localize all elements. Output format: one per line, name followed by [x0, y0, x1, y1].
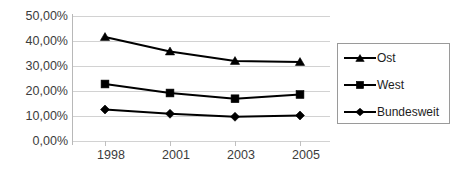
data-point-bundesweit-2003	[231, 112, 240, 121]
legend-entry-ost[interactable]: Ost	[344, 50, 396, 66]
data-point-bundesweit-2001	[166, 109, 175, 118]
data-point-bundesweit-1998	[101, 105, 110, 114]
legend-entry-bundesweit[interactable]: Bundesweit	[344, 104, 439, 120]
legend-entry-west[interactable]: West	[344, 77, 404, 93]
data-point-west-2001	[166, 89, 174, 97]
data-point-west-2005	[296, 91, 304, 99]
bottom-crop-edge	[0, 183, 456, 187]
legend-label-bundesweit: Bundesweit	[376, 106, 439, 118]
data-point-west-1998	[101, 80, 109, 88]
line-chart: 50,00% 40,00% 30,00% 20,00% 10,00% 0,00%…	[0, 0, 456, 187]
data-point-bundesweit-2005	[296, 111, 305, 120]
legend: Ost West Bundesweit	[337, 43, 450, 124]
series-line-bundesweit	[105, 110, 300, 117]
triangle-marker-icon	[344, 52, 376, 64]
data-point-ost-1998	[100, 33, 109, 41]
series-line-ost	[105, 37, 300, 62]
legend-label-west: West	[376, 79, 404, 91]
legend-label-ost: Ost	[376, 52, 396, 64]
top-crop-edge	[0, 0, 456, 3]
data-point-west-2003	[231, 95, 239, 103]
series-bundesweit	[101, 105, 305, 121]
diamond-marker-icon	[344, 106, 376, 118]
series-west	[101, 80, 304, 103]
series-line-west	[105, 84, 300, 99]
square-marker-icon	[344, 79, 376, 91]
series-ost	[100, 33, 304, 66]
